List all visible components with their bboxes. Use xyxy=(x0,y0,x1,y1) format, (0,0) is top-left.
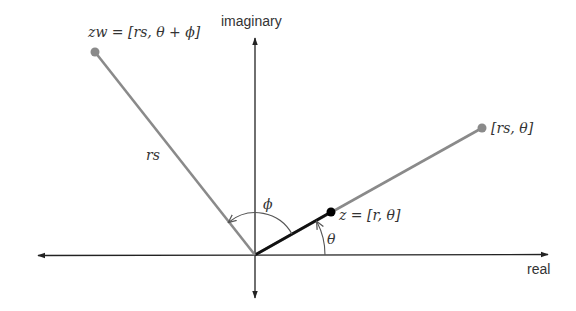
real-axis-label: real xyxy=(527,261,550,277)
complex-plane-diagram: imaginary real zw = [rs, θ + ϕ] [rs, θ] … xyxy=(0,0,576,311)
theta-arc xyxy=(317,222,325,255)
phi-arc xyxy=(229,213,292,234)
phi-angle-label: ϕ xyxy=(263,196,273,212)
zw-line xyxy=(95,52,255,255)
real-axis xyxy=(38,255,548,256)
z-line xyxy=(255,212,331,255)
theta-angle-label: θ xyxy=(327,231,336,247)
zw-label: zw = [rs, θ + ϕ] xyxy=(87,24,201,40)
rs-theta-label: [rs, θ] xyxy=(491,120,534,136)
z-label: z = [r, θ] xyxy=(338,207,401,223)
rs-segment-label: rs xyxy=(146,147,160,163)
z-point xyxy=(327,208,336,217)
rs-theta-point xyxy=(478,124,487,133)
zw-point xyxy=(91,48,100,57)
imaginary-axis-label: imaginary xyxy=(221,13,282,29)
